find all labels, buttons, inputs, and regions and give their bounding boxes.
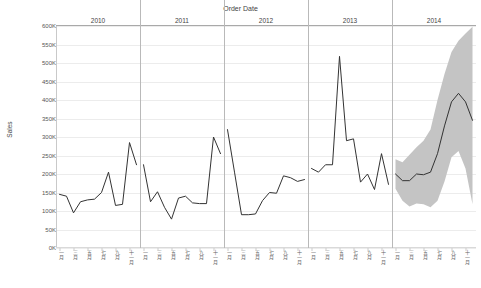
x-tick-label: 七月: [98, 250, 105, 260]
x-tick-label: 一月: [56, 250, 63, 260]
panel-year-label: 2014: [392, 17, 476, 24]
chart-root: Order Date Sales 0K50K100K150K200K250K30…: [0, 0, 481, 288]
y-tick-label: 500K: [10, 60, 56, 66]
y-tick-label: 350K: [10, 116, 56, 122]
x-tick-mark: [367, 248, 368, 251]
x-tick-mark: [171, 248, 172, 251]
x-tick-mark: [423, 248, 424, 251]
x-tick-label: 五月: [252, 250, 259, 260]
x-tick-label: 九月: [196, 250, 203, 260]
x-tick-mark: [241, 248, 242, 251]
x-tick-mark: [269, 248, 270, 251]
y-tick-label: 150K: [10, 190, 56, 196]
x-tick-label: 七月: [266, 250, 273, 260]
x-tick-label: 一月: [224, 250, 231, 260]
panel-separator: [392, 0, 393, 248]
y-tick-label: 600K: [10, 23, 56, 29]
series-path: [396, 93, 473, 180]
x-tick-label: 十一月: [378, 250, 385, 265]
y-tick-label: 200K: [10, 171, 56, 177]
plot-area: [56, 26, 476, 248]
y-tick-label: 50K: [10, 227, 56, 233]
x-tick-mark: [283, 248, 284, 251]
panel-year-label: 2011: [140, 17, 224, 24]
series-path: [60, 143, 137, 213]
x-tick-mark: [227, 248, 228, 251]
x-tick-label: 五月: [336, 250, 343, 260]
x-tick-label: 十一月: [210, 250, 217, 265]
x-tick-label: 一月: [140, 250, 147, 260]
panel-separator: [308, 0, 309, 248]
x-tick-label: 十一月: [126, 250, 133, 265]
x-tick-mark: [297, 248, 298, 251]
x-tick-mark: [339, 248, 340, 251]
series-path: [228, 130, 305, 215]
panel-year-label: 2010: [56, 17, 140, 24]
x-tick-mark: [185, 248, 186, 251]
series-path: [144, 137, 221, 219]
x-tick-label: 七月: [182, 250, 189, 260]
panel-year-label: 2013: [308, 17, 392, 24]
x-tick-label: 九月: [364, 250, 371, 260]
x-tick-label: 十一月: [462, 250, 469, 265]
y-tick-label: 550K: [10, 42, 56, 48]
x-tick-mark: [353, 248, 354, 251]
y-tick-label: 0K: [10, 245, 56, 251]
series-path: [312, 56, 389, 189]
sales-line-series: [56, 26, 476, 248]
x-tick-label: 七月: [434, 250, 441, 260]
x-tick-label: 三月: [322, 250, 329, 260]
x-tick-label: 五月: [84, 250, 91, 260]
x-tick-mark: [143, 248, 144, 251]
x-tick-mark: [59, 248, 60, 251]
x-tick-label: 九月: [112, 250, 119, 260]
y-axis-tick-labels: 0K50K100K150K200K250K300K350K400K450K500…: [0, 0, 56, 288]
x-tick-mark: [115, 248, 116, 251]
x-tick-mark: [325, 248, 326, 251]
x-tick-label: 五月: [168, 250, 175, 260]
x-tick-label: 三月: [238, 250, 245, 260]
x-tick-mark: [87, 248, 88, 251]
y-tick-label: 400K: [10, 97, 56, 103]
x-tick-mark: [157, 248, 158, 251]
x-tick-mark: [129, 248, 130, 251]
x-tick-mark: [213, 248, 214, 251]
x-tick-mark: [381, 248, 382, 251]
x-tick-label: 三月: [70, 250, 77, 260]
panel-separator: [140, 0, 141, 248]
x-tick-mark: [437, 248, 438, 251]
panel-separator: [224, 0, 225, 248]
x-tick-mark: [199, 248, 200, 251]
y-tick-label: 300K: [10, 134, 56, 140]
x-tick-mark: [409, 248, 410, 251]
x-tick-label: 九月: [280, 250, 287, 260]
x-tick-mark: [73, 248, 74, 251]
y-tick-label: 100K: [10, 208, 56, 214]
x-tick-mark: [255, 248, 256, 251]
x-tick-mark: [451, 248, 452, 251]
x-tick-mark: [395, 248, 396, 251]
x-tick-label: 五月: [420, 250, 427, 260]
x-tick-mark: [465, 248, 466, 251]
y-tick-label: 250K: [10, 153, 56, 159]
x-tick-label: 一月: [392, 250, 399, 260]
x-tick-label: 十一月: [294, 250, 301, 265]
x-tick-label: 三月: [406, 250, 413, 260]
x-tick-label: 一月: [308, 250, 315, 260]
panel-year-label: 2012: [224, 17, 308, 24]
x-axis-tick-labels: 一月三月五月七月九月十一月一月三月五月七月九月十一月一月三月五月七月九月十一月一…: [56, 250, 476, 288]
x-tick-mark: [101, 248, 102, 251]
panel-header-row: 20102011201220132014: [56, 9, 476, 26]
y-tick-label: 450K: [10, 79, 56, 85]
gridline: [56, 248, 476, 249]
x-tick-label: 三月: [154, 250, 161, 260]
x-tick-label: 九月: [448, 250, 455, 260]
x-tick-label: 七月: [350, 250, 357, 260]
x-tick-mark: [311, 248, 312, 251]
